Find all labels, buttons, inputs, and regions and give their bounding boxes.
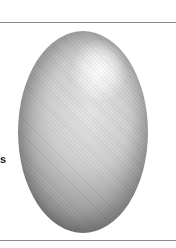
bottom-rule	[0, 240, 176, 241]
cropped-label-text: s	[0, 153, 6, 165]
top-rule	[0, 22, 176, 23]
egg-texture	[18, 31, 148, 233]
